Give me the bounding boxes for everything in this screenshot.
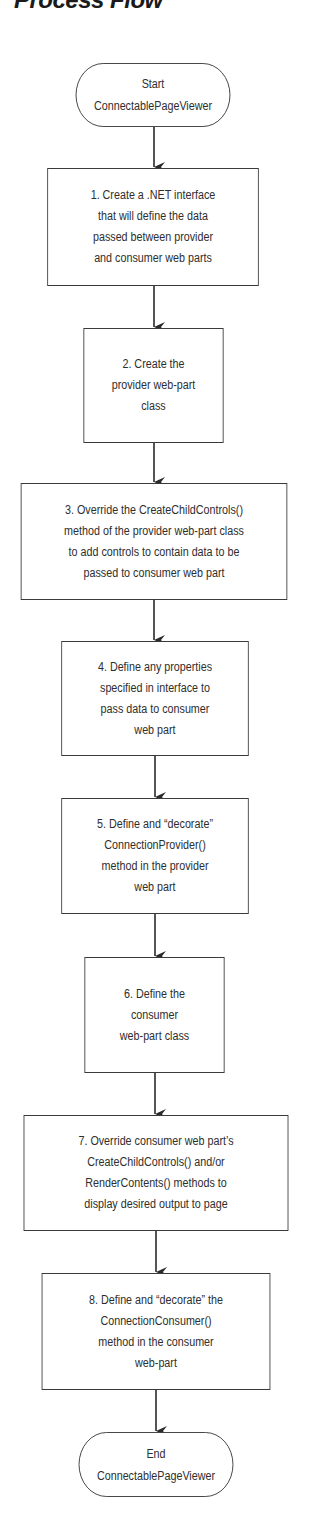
start-terminal-label: Start ConnectablePageViewer (94, 73, 212, 117)
step-2-label: 2. Create the provider web-part class (112, 354, 196, 417)
step-4-label: 4. Define any properties specified in in… (98, 657, 212, 741)
start-terminal: Start ConnectablePageViewer (76, 63, 231, 127)
step-7-box: 7. Override consumer web part’s CreateCh… (24, 1115, 289, 1231)
step-4-box: 4. Define any properties specified in in… (61, 641, 248, 756)
step-5-box: 5. Define and “decorate” ConnectionProvi… (61, 798, 248, 914)
step-6-label: 6. Define the consumer web-part class (120, 984, 189, 1047)
step-8-box: 8. Define and “decorate” the ConnectionC… (42, 1273, 271, 1390)
end-terminal: End ConnectablePageViewer (79, 1432, 234, 1497)
step-3-box: 3. Override the CreateChildControls() me… (21, 483, 288, 600)
step-1-label: 1. Create a .NET interface that will def… (91, 185, 216, 269)
step-2-box: 2. Create the provider web-part class (83, 328, 223, 443)
step-3-label: 3. Override the CreateChildControls() me… (64, 500, 244, 584)
diagram-title: Process Flow (14, 0, 163, 14)
step-8-label: 8. Define and “decorate” the ConnectionC… (89, 1290, 223, 1374)
end-terminal-label: End ConnectablePageViewer (97, 1443, 215, 1487)
step-5-label: 5. Define and “decorate” ConnectionProvi… (97, 814, 213, 898)
step-7-label: 7. Override consumer web part’s CreateCh… (78, 1131, 233, 1215)
step-1-box: 1. Create a .NET interface that will def… (47, 168, 259, 286)
step-6-box: 6. Define the consumer web-part class (84, 957, 224, 1073)
